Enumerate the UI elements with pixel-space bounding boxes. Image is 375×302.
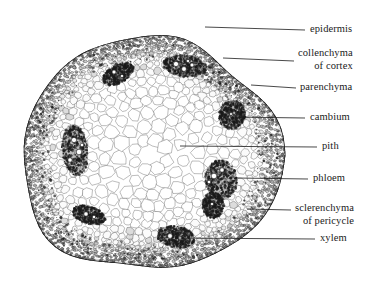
label-phloem-line1: phloem bbox=[313, 172, 345, 183]
stem-cross-section-diagram bbox=[0, 0, 375, 302]
label-cambium: cambium bbox=[310, 111, 350, 124]
xylem-vessel-lumen bbox=[84, 212, 88, 216]
xylem-vessel-lumen bbox=[71, 137, 76, 142]
label-pith: pith bbox=[322, 140, 339, 153]
xylem-vessel-lumen bbox=[92, 215, 95, 218]
xylem-vessel-lumen bbox=[173, 61, 178, 66]
xylem-vessel-lumen bbox=[76, 149, 82, 155]
label-collenchyma: collenchymaof cortex bbox=[298, 47, 353, 72]
leader-line-epidermis bbox=[205, 27, 305, 30]
label-parenchyma-line1: parenchyma bbox=[300, 81, 352, 92]
leader-line-parenchyma bbox=[251, 85, 296, 88]
label-parenchyma: parenchyma bbox=[300, 81, 352, 94]
xylem-vessel-lumen bbox=[190, 63, 194, 67]
label-xylem-line1: xylem bbox=[320, 232, 347, 243]
label-sclerenchyma: sclerenchymaof pericycle bbox=[295, 202, 354, 227]
xylem-vessel-lumen bbox=[186, 59, 189, 62]
xylem-vessel-lumen bbox=[182, 67, 187, 72]
xylem-vessel-lumen bbox=[68, 158, 72, 162]
label-xylem: xylem bbox=[320, 232, 347, 245]
xylem-vessel-lumen bbox=[168, 234, 173, 239]
xylem-vessel-lumen bbox=[210, 202, 213, 205]
xylem-vessel-lumen bbox=[211, 173, 217, 179]
xylem-vessel-lumen bbox=[112, 70, 116, 74]
xylem-vessel-lumen bbox=[230, 113, 233, 116]
xylem-vessel-lumen bbox=[120, 74, 123, 77]
label-sclerenchyma-line2: of pericycle bbox=[295, 215, 354, 228]
xylem-vessel-lumen bbox=[207, 180, 211, 184]
label-pith-line1: pith bbox=[322, 140, 339, 151]
xylem-vessel-lumen bbox=[220, 168, 224, 172]
label-collenchyma-line2: of cortex bbox=[298, 60, 353, 73]
label-phloem: phloem bbox=[313, 172, 345, 185]
label-collenchyma-line1: collenchyma bbox=[298, 47, 353, 58]
xylem-vessel-lumen bbox=[80, 143, 84, 147]
label-sclerenchyma-line1: sclerenchyma bbox=[295, 202, 354, 213]
label-cambium-line1: cambium bbox=[310, 111, 350, 122]
label-epidermis-line1: epidermis bbox=[310, 23, 352, 34]
figure-canvas: epidermiscollenchymaof cortexparenchymac… bbox=[0, 0, 375, 302]
leader-line-collenchyma bbox=[223, 58, 294, 61]
label-epidermis: epidermis bbox=[310, 23, 352, 36]
